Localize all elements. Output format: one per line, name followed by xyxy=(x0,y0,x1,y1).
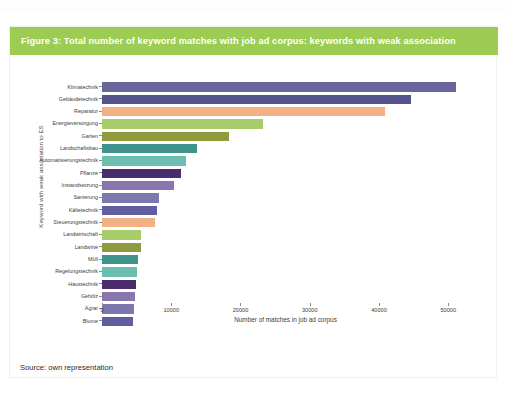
bar xyxy=(102,206,157,215)
y-axis-tick-label: Klimatechnik xyxy=(67,81,98,93)
figure-card: Figure 3: Total number of keyword matche… xyxy=(9,26,497,378)
bar xyxy=(102,169,181,178)
y-axis-tick-label: Reparatur xyxy=(74,105,98,117)
y-axis-tick-label: Energieversorgung xyxy=(52,117,98,129)
y-axis-tick-label: Haustechnik xyxy=(68,278,98,290)
bar-row: Regelungstechnik xyxy=(102,266,469,278)
y-axis-tick-label: Instandsetzung xyxy=(61,179,98,191)
x-axis-tick-label: 0 xyxy=(100,307,103,313)
bar xyxy=(102,119,263,128)
y-axis-tick-label: Gehölz xyxy=(81,290,98,302)
bar-row: Haustechnik xyxy=(102,278,469,290)
bar xyxy=(102,255,138,264)
y-axis-tick-label: Gebäudetechnik xyxy=(59,93,98,105)
bar xyxy=(102,230,141,239)
bar-row: Garten xyxy=(102,130,469,142)
bar-row: Landwirtschaft xyxy=(102,229,469,241)
bar-row: Landwirte xyxy=(102,241,469,253)
bar xyxy=(102,292,135,301)
chart-plot-region: Keyword with weak association to ES Klim… xyxy=(10,55,498,351)
bar xyxy=(102,243,141,252)
y-axis-tick-label: Automatisierungstechnik xyxy=(39,154,98,166)
bar-row: Landschaftsbau xyxy=(102,143,469,155)
bar xyxy=(102,156,186,165)
bar xyxy=(102,218,155,227)
bar-row: Pflanze xyxy=(102,167,469,179)
bar-row: Steuerungstechnik xyxy=(102,217,469,229)
bar xyxy=(102,193,159,202)
y-axis-tick-label: Landschaftsbau xyxy=(60,142,98,154)
bar-row: Gebäudetechnik xyxy=(102,93,469,105)
bar-row: Gehölz xyxy=(102,291,469,303)
x-axis-tick-label: 50000 xyxy=(440,307,456,313)
y-axis-tick-label: Agrar xyxy=(85,302,98,314)
y-axis-tick-label: Pflanze xyxy=(80,167,98,179)
bar-row: Klimatechnik xyxy=(102,81,469,93)
bar-row: Kältetechnik xyxy=(102,204,469,216)
y-axis-tick-label: Blume xyxy=(83,315,98,327)
source-note: Source: own representation xyxy=(20,363,113,372)
y-axis-tick-label: Müll xyxy=(88,253,98,265)
x-axis-tick-label: 30000 xyxy=(302,307,318,313)
bar-row: Energieversorgung xyxy=(102,118,469,130)
bar xyxy=(102,181,174,190)
x-axis-tick xyxy=(448,303,449,306)
bar-row: Automatisierungstechnik xyxy=(102,155,469,167)
bar xyxy=(102,280,136,289)
bar-row: Sanierung xyxy=(102,192,469,204)
bar xyxy=(102,95,411,104)
x-axis-tick xyxy=(379,303,380,306)
y-axis-tick-label: Sanierung xyxy=(73,191,98,203)
y-axis-tick-label: Garten xyxy=(82,130,98,142)
x-axis-tick-label: 10000 xyxy=(163,307,179,313)
bar xyxy=(102,107,385,116)
x-axis-tick xyxy=(171,303,172,306)
x-axis-tick-label: 20000 xyxy=(233,307,249,313)
page-top-ghost-text xyxy=(0,0,508,14)
x-axis-tick xyxy=(102,303,103,306)
bar-row: Instandsetzung xyxy=(102,180,469,192)
bar xyxy=(102,82,456,91)
x-axis-tick xyxy=(240,303,241,306)
y-axis-tick-label: Kältetechnik xyxy=(69,204,98,216)
bar xyxy=(102,144,197,153)
bar-chart-axes: KlimatechnikGebäudetechnikReparaturEnerg… xyxy=(102,81,469,303)
bar xyxy=(102,267,137,276)
x-axis: Number of matches in job ad corpus 01000… xyxy=(102,303,469,343)
bar xyxy=(102,132,229,141)
y-axis-title: Keyword with weak association to ES xyxy=(37,97,44,257)
figure-header-band: Figure 3: Total number of keyword matche… xyxy=(10,27,498,55)
y-axis-tick-label: Landwirtschaft xyxy=(63,228,98,240)
x-axis-tick xyxy=(310,303,311,306)
y-axis-tick-label: Landwirte xyxy=(75,241,98,253)
bar-row: Reparatur xyxy=(102,106,469,118)
x-axis-title: Number of matches in job ad corpus xyxy=(102,316,469,323)
y-axis-tick-label: Regelungstechnik xyxy=(55,265,98,277)
y-axis-tick-label: Steuerungstechnik xyxy=(53,216,98,228)
x-axis-tick-label: 40000 xyxy=(371,307,387,313)
bar-row: Müll xyxy=(102,254,469,266)
figure-title: Figure 3: Total number of keyword matche… xyxy=(10,36,456,46)
